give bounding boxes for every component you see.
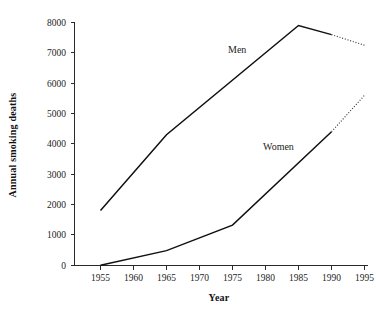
x-tick-label-1995: 1995 [355,273,374,283]
y-tick-label-7000: 7000 [47,48,66,58]
series-annotation-men: Men [228,44,246,55]
y-tick-label-0: 0 [61,261,66,271]
series-line-women [101,132,332,265]
x-tick-label-1980: 1980 [256,273,275,283]
y-axis-ticks [71,23,75,266]
y-tick-label-3000: 3000 [47,170,66,180]
series-projection-men [332,35,365,46]
series-layer [101,26,365,266]
y-tick-label-6000: 6000 [47,79,66,89]
x-tick-label-1970: 1970 [190,273,209,283]
x-tick-label-1990: 1990 [322,273,341,283]
chart-figure: 8000 7000 6000 5000 4000 3000 2000 1000 … [0,0,376,311]
x-axis-ticks [101,266,365,270]
series-projection-women [332,95,365,131]
smoking-deaths-line-chart: 8000 7000 6000 5000 4000 3000 2000 1000 … [0,0,376,311]
x-axis-title: Year [209,292,230,303]
series-annotation-women: Women [263,141,294,152]
x-tick-label-1955: 1955 [91,273,110,283]
y-tick-label-1000: 1000 [47,230,66,240]
x-tick-label-1965: 1965 [157,273,176,283]
x-axis-tick-labels: 1955 1960 1965 1970 1975 1980 1985 1990 … [91,273,374,283]
series-line-men [101,26,332,211]
y-tick-label-4000: 4000 [47,139,66,149]
y-tick-label-8000: 8000 [47,18,66,28]
x-tick-label-1975: 1975 [223,273,242,283]
y-tick-label-5000: 5000 [47,109,66,119]
x-tick-label-1960: 1960 [124,273,143,283]
x-tick-label-1985: 1985 [289,273,308,283]
y-tick-label-2000: 2000 [47,200,66,210]
y-axis-title: Annual smoking deaths [7,93,18,198]
y-axis-tick-labels: 8000 7000 6000 5000 4000 3000 2000 1000 … [47,18,66,271]
